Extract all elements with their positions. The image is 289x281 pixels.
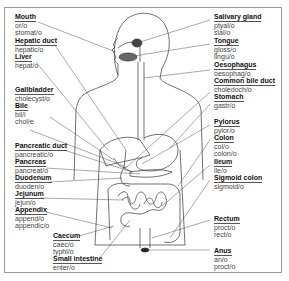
- leader-oesophagus: [144, 70, 210, 78]
- label-anus-root-2: proct/o: [214, 263, 235, 271]
- label-rectum-name: Rectum: [214, 215, 240, 224]
- label-anus-root-1: an/o: [214, 256, 235, 264]
- label-gallbladder-name: Gallbladder: [15, 86, 54, 95]
- label-sigmoid-colon-root-1: sigmoid/o: [214, 183, 262, 191]
- label-liver-name: Liver: [15, 53, 32, 62]
- leader-caecum: [79, 226, 114, 236]
- label-appendix-root-1: append/o: [15, 215, 49, 223]
- label-duodenum-name: Duodenum: [15, 174, 52, 183]
- label-mouth: Mouth or/o stomat/o: [15, 13, 42, 37]
- label-jejunum-name: Jejunum: [15, 190, 44, 199]
- label-appendix: Appendix append/o appendic/o: [15, 206, 49, 230]
- label-bile-root-2: chol/e: [15, 118, 34, 126]
- label-mouth-name: Mouth: [15, 13, 36, 22]
- label-caecum-name: Caecum: [53, 232, 80, 241]
- head-outline: [114, 13, 169, 78]
- label-liver: Liver hepat/o: [15, 53, 38, 69]
- label-hepatic-duct: Hepatic duct hepatic/o: [15, 37, 57, 53]
- leader-small-intestine: [100, 220, 130, 258]
- label-anus-name: Anus: [214, 247, 232, 256]
- leader-stomach: [170, 104, 210, 148]
- label-small-intestine-root-1: enter/o: [53, 264, 102, 272]
- label-caecum-root-1: caec/o: [53, 241, 80, 249]
- label-common-bile-duct: Common bile duct choledoch/o: [214, 77, 275, 93]
- label-salivary-gland-root-2: sial/o: [214, 29, 261, 37]
- label-pancreas: Pancreas pancreat/o: [15, 158, 48, 174]
- label-salivary-gland-root-1: ptyal/o: [214, 22, 261, 30]
- label-appendix-root-2: appendic/o: [15, 222, 49, 230]
- label-pancreatic-duct: Pancreatic duct pancreatic/o: [15, 142, 67, 158]
- leader-colon: [178, 140, 210, 186]
- label-liver-root-1: hepat/o: [15, 62, 38, 70]
- label-mouth-root-1: or/o: [15, 22, 42, 30]
- label-pylorus-name: Pylorus: [214, 118, 240, 127]
- label-sigmoid-colon: Sigmoid colon sigmoid/o: [214, 174, 262, 190]
- label-sigmoid-colon-name: Sigmoid colon: [214, 174, 262, 183]
- label-ileum-name: Ileum: [214, 158, 232, 167]
- label-rectum: Rectum proct/o rect/o: [214, 215, 240, 239]
- oesophagus: [138, 62, 144, 140]
- label-appendix-name: Appendix: [15, 206, 47, 215]
- label-colon-name: Colon: [214, 134, 234, 143]
- tongue: [119, 53, 137, 61]
- label-colon: Colon col/o colon/o: [214, 134, 237, 158]
- leader-tongue: [134, 44, 210, 56]
- label-tongue-root-2: lingu/o: [214, 53, 239, 61]
- label-rectum-root-1: proct/o: [214, 224, 240, 232]
- salivary-gland: [132, 39, 142, 47]
- leader-sigmoid-colon: [170, 180, 210, 238]
- label-stomach-root-1: gastr/o: [214, 102, 244, 110]
- label-tongue: Tongue gloss/o lingu/o: [214, 37, 239, 61]
- label-bile-name: Bile: [15, 102, 28, 111]
- label-tongue-name: Tongue: [214, 37, 239, 46]
- leader-liver: [36, 62, 108, 150]
- label-common-bile-duct-name: Common bile duct: [214, 77, 275, 86]
- label-mouth-root-2: stomat/o: [15, 29, 42, 37]
- label-gallbladder: Gallbladder cholecyst/o: [15, 86, 54, 102]
- label-small-intestine: Small intestine enter/o: [53, 255, 102, 271]
- leader-appendix: [46, 212, 112, 228]
- neck-shoulders-right: [160, 78, 203, 180]
- label-anus: Anus an/o proct/o: [214, 247, 235, 271]
- small-intestine: [118, 192, 166, 227]
- label-rectum-root-2: rect/o: [214, 231, 240, 239]
- label-colon-root-1: col/o: [214, 143, 237, 151]
- label-pancreatic-duct-name: Pancreatic duct: [15, 142, 67, 151]
- leader-jejunum: [40, 198, 124, 200]
- label-oesophagus-name: Oesophagus: [214, 61, 256, 70]
- label-hepatic-duct-name: Hepatic duct: [15, 37, 57, 46]
- label-jejunum: Jejunum jejun/o: [15, 190, 44, 206]
- label-salivary-gland: Salivary gland ptyal/o sial/o: [214, 13, 261, 37]
- label-pancreas-name: Pancreas: [15, 158, 46, 167]
- label-bile-root-1: bil/i: [15, 111, 34, 119]
- leader-rectum: [152, 220, 210, 238]
- label-ileum: Ileum ile/o: [214, 158, 232, 174]
- label-stomach-name: Stomach: [214, 93, 244, 102]
- label-stomach: Stomach gastr/o: [214, 93, 244, 109]
- leader-salivary-gland: [140, 20, 210, 42]
- label-oesophagus: Oesophagus oesophag/o: [214, 61, 256, 77]
- leader-duodenum: [50, 178, 122, 182]
- label-duodenum: Duodenum duoden/o: [15, 174, 52, 190]
- label-bile: Bile bil/i chol/e: [15, 102, 34, 126]
- label-colon-root-2: colon/o: [214, 150, 237, 158]
- leader-common-bile-duct: [128, 92, 210, 166]
- anus: [141, 248, 149, 252]
- label-small-intestine-name: Small intestine: [53, 255, 102, 264]
- label-salivary-gland-name: Salivary gland: [214, 13, 261, 22]
- label-caecum: Caecum caec/o typhl/o: [53, 232, 80, 256]
- label-tongue-root-1: gloss/o: [214, 46, 239, 54]
- label-pylorus: Pylorus pylor/o: [214, 118, 240, 134]
